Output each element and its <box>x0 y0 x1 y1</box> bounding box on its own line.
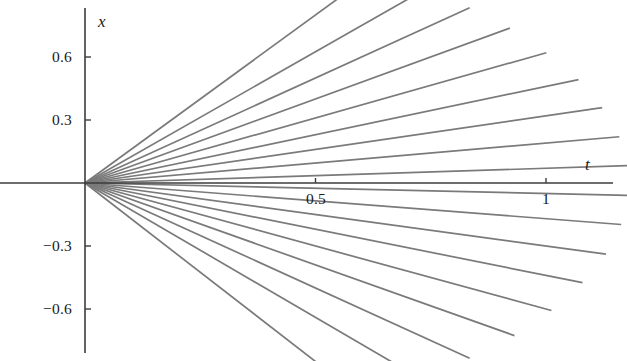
x-tick-label-0.5: 0.5 <box>306 190 326 208</box>
plot-canvas <box>0 0 627 361</box>
y-tick-label-0.6: 0.6 <box>52 48 72 66</box>
chart-figure: x t 0.6 0.3 −0.3 −0.6 0.5 1 <box>0 0 627 361</box>
y-tick-label-neg0.3: −0.3 <box>43 237 72 255</box>
y-axis-label: x <box>98 12 106 32</box>
y-tick-label-neg0.6: −0.6 <box>43 300 72 318</box>
x-tick-label-1: 1 <box>542 190 550 208</box>
y-tick-label-0.3: 0.3 <box>52 111 72 129</box>
x-axis-label: t <box>585 155 590 175</box>
